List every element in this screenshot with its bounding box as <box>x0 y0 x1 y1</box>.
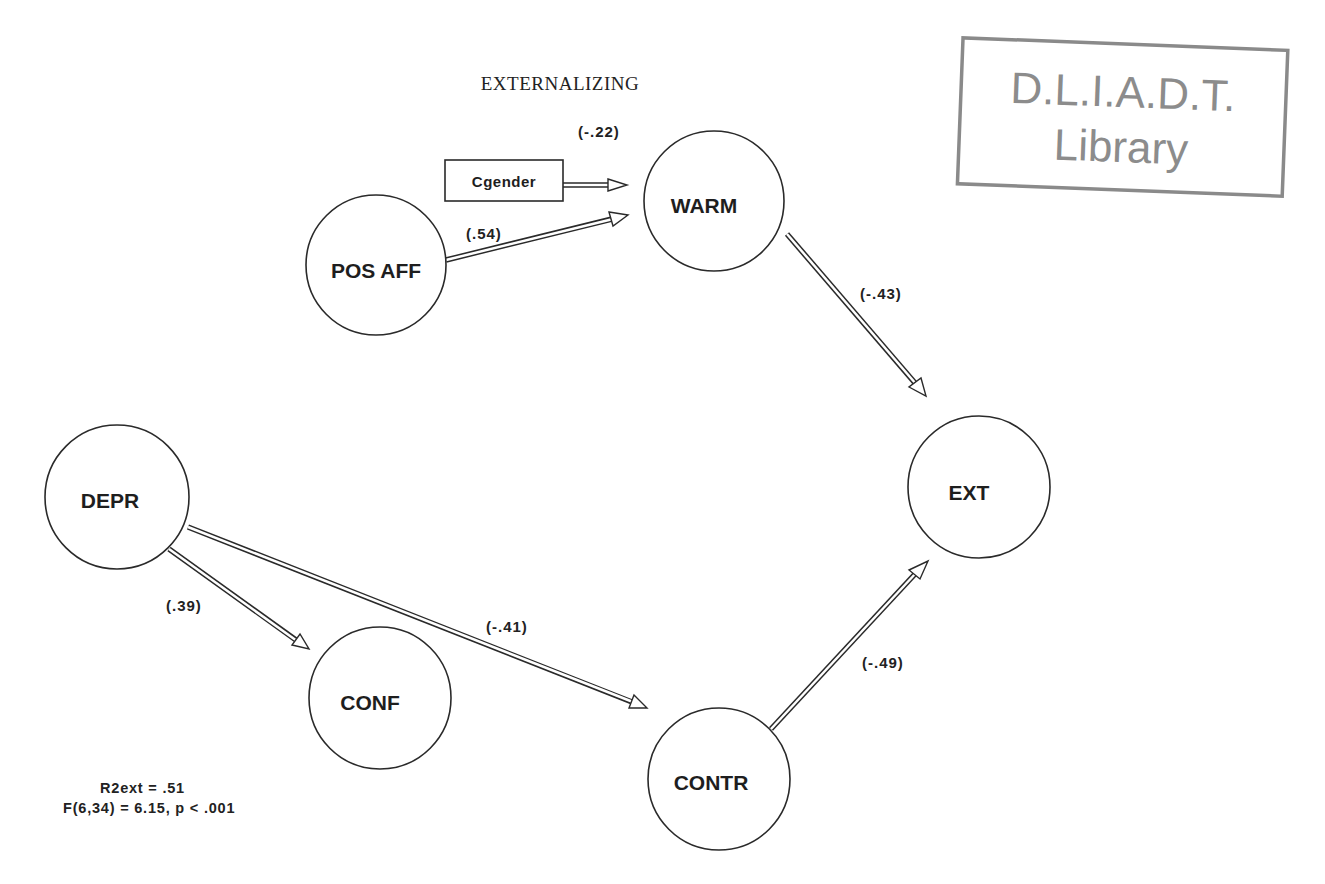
node-conf: CONF <box>309 627 451 769</box>
node-warm: WARM <box>644 131 784 271</box>
library-stamp: D.L.I.A.D.T. Library <box>957 38 1287 196</box>
stamp-line-2: Library <box>1053 119 1189 173</box>
arrow-contr-ext <box>771 561 928 729</box>
stamp-frame <box>957 38 1287 196</box>
cgender-box: Cgender <box>445 160 563 201</box>
r2-stat: R2ext = .51 <box>100 780 185 796</box>
node-ext: EXT <box>908 416 1050 558</box>
node-ext-label: EXT <box>949 481 990 504</box>
coef-depr-conf: (.39) <box>166 597 202 614</box>
node-depr: DEPR <box>45 425 189 569</box>
arrow-cgender-warm <box>563 179 627 191</box>
f-test-stat: F(6,34) = 6.15, p < .001 <box>63 800 235 816</box>
cgender-label: Cgender <box>472 173 536 190</box>
coef-warm-ext: (-.43) <box>860 285 902 302</box>
node-depr-label: DEPR <box>81 489 139 512</box>
arrow-warm-ext <box>787 234 926 396</box>
coef-cgender-warm: (-.22) <box>578 123 620 140</box>
path-diagram: EXTERNALIZING D.L.I.A.D.T. Library (-.22… <box>0 0 1325 884</box>
node-contr: CONTR <box>648 708 790 850</box>
coef-depr-contr: (-.41) <box>486 618 528 635</box>
node-conf-label: CONF <box>340 691 400 714</box>
node-pos-aff-label: POS AFF <box>331 259 421 282</box>
node-warm-label: WARM <box>671 194 738 217</box>
coef-contr-ext: (-.49) <box>862 654 904 671</box>
node-contr-label: CONTR <box>674 771 749 794</box>
coef-posaff-warm: (.54) <box>466 225 502 242</box>
node-pos-aff: POS AFF <box>306 195 446 335</box>
diagram-title: EXTERNALIZING <box>481 73 639 94</box>
stamp-line-1: D.L.I.A.D.T. <box>1010 63 1237 121</box>
